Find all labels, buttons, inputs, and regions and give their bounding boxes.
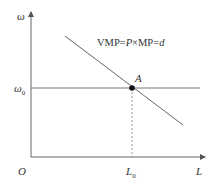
y-axis-label: ω (17, 10, 25, 22)
x-axis-label: L (195, 165, 202, 177)
point-a-label: A (134, 72, 142, 84)
wage-level-label: ω0 (14, 82, 26, 97)
labor-demand-diagram: ω L O ω0 L0 A VMP=P×MP=d (0, 0, 218, 184)
curve-label: VMP=P×MP=d (97, 37, 165, 48)
origin-label: O (18, 165, 26, 177)
vmp-demand-line (65, 36, 183, 125)
labor-level-label: L0 (125, 165, 136, 180)
equilibrium-point (129, 85, 135, 91)
